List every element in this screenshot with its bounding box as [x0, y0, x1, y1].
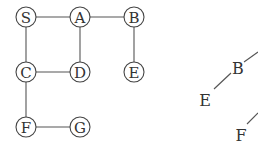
- tree-edge: [247, 113, 258, 124]
- node-A: A: [70, 7, 90, 27]
- node-S: S: [16, 7, 36, 27]
- node-label: D: [74, 64, 86, 82]
- node-label: G: [74, 119, 86, 137]
- node-D: D: [70, 62, 90, 82]
- node-label: S: [21, 9, 31, 27]
- diagram-canvas: SABCDEFG BEF: [0, 0, 258, 158]
- node-label: E: [129, 64, 140, 82]
- tree-edge: [214, 73, 231, 89]
- node-C: C: [16, 62, 36, 82]
- node-label: F: [21, 119, 31, 137]
- node-B: B: [124, 7, 144, 27]
- tree-nodes: BEF: [199, 59, 246, 145]
- node-E: E: [124, 62, 144, 82]
- node-label: B: [128, 9, 139, 27]
- tree-edge: [244, 52, 258, 62]
- tree-node-E: E: [199, 91, 211, 110]
- tree-node-F: F: [235, 126, 246, 145]
- tree-node-B: B: [232, 59, 244, 78]
- node-F: F: [16, 117, 36, 137]
- node-label: A: [74, 9, 86, 27]
- graph-nodes: SABCDEFG: [16, 7, 144, 137]
- node-label: C: [20, 64, 31, 82]
- node-G: G: [70, 117, 90, 137]
